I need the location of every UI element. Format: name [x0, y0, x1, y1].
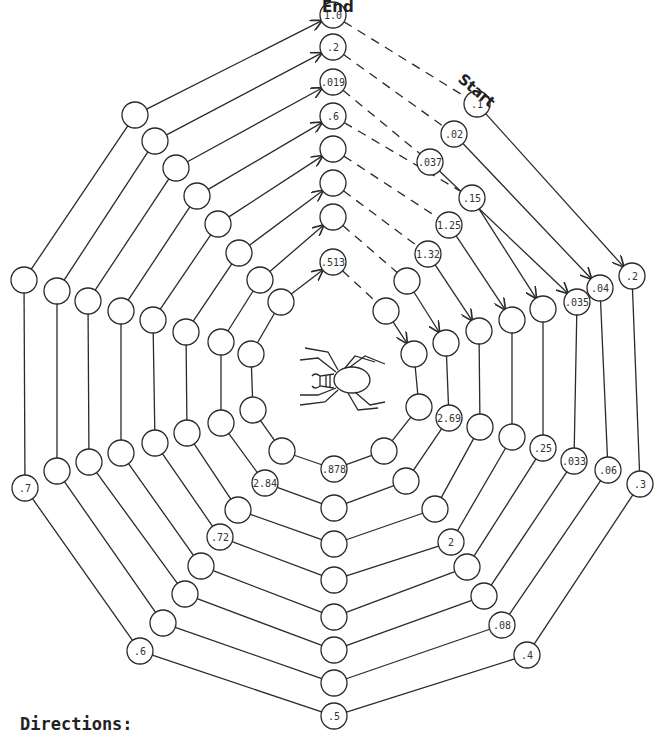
node-circle[interactable] [467, 414, 493, 440]
node-circle[interactable] [401, 341, 427, 367]
node-circle[interactable] [44, 278, 70, 304]
web-node[interactable] [530, 296, 556, 322]
web-node[interactable] [44, 278, 70, 304]
node-circle[interactable] [44, 458, 70, 484]
web-node[interactable]: 2.69 [436, 405, 462, 431]
web-node[interactable]: .2 [619, 263, 645, 289]
web-node[interactable] [184, 183, 210, 209]
node-circle[interactable] [240, 397, 266, 423]
node-circle[interactable] [188, 553, 214, 579]
node-circle[interactable] [422, 496, 448, 522]
node-circle[interactable] [208, 410, 234, 436]
web-node[interactable] [208, 329, 234, 355]
web-node[interactable]: 1.25 [436, 212, 462, 238]
web-node[interactable] [422, 496, 448, 522]
node-circle[interactable] [11, 267, 37, 293]
node-circle[interactable] [371, 438, 397, 464]
node-circle[interactable] [205, 211, 231, 237]
web-node[interactable] [269, 438, 295, 464]
node-circle[interactable] [108, 440, 134, 466]
node-circle[interactable] [269, 438, 295, 464]
web-node[interactable]: .2 [320, 34, 346, 60]
web-node[interactable] [11, 267, 37, 293]
node-circle[interactable] [173, 319, 199, 345]
node-circle[interactable] [321, 604, 347, 630]
node-circle[interactable] [373, 298, 399, 324]
web-node[interactable] [321, 531, 347, 557]
web-node[interactable] [247, 267, 273, 293]
web-node[interactable]: .033 [561, 448, 587, 474]
web-node[interactable]: .3 [627, 471, 653, 497]
node-circle[interactable] [142, 128, 168, 154]
web-node[interactable] [433, 330, 459, 356]
node-circle[interactable] [140, 307, 166, 333]
node-circle[interactable] [471, 583, 497, 609]
node-circle[interactable] [122, 102, 148, 128]
web-node[interactable] [320, 136, 346, 162]
node-circle[interactable] [394, 268, 420, 294]
node-circle[interactable] [393, 468, 419, 494]
web-node[interactable] [371, 438, 397, 464]
node-circle[interactable] [142, 430, 168, 456]
node-circle[interactable] [454, 554, 480, 580]
web-node[interactable] [499, 307, 525, 333]
node-circle[interactable] [163, 155, 189, 181]
web-node[interactable] [172, 581, 198, 607]
node-circle[interactable] [499, 307, 525, 333]
web-node[interactable]: .25 [530, 435, 556, 461]
web-node[interactable] [373, 298, 399, 324]
node-circle[interactable] [238, 341, 264, 367]
node-circle[interactable] [75, 288, 101, 314]
web-node[interactable] [240, 397, 266, 423]
web-node[interactable] [150, 610, 176, 636]
node-circle[interactable] [108, 298, 134, 324]
node-circle[interactable] [321, 567, 347, 593]
node-circle[interactable] [174, 420, 200, 446]
web-node[interactable]: .878 [321, 456, 347, 482]
web-node[interactable] [268, 289, 294, 315]
node-circle[interactable] [321, 637, 347, 663]
web-node[interactable] [142, 430, 168, 456]
web-node[interactable] [140, 307, 166, 333]
node-circle[interactable] [208, 329, 234, 355]
web-node[interactable] [471, 583, 497, 609]
web-node[interactable] [406, 394, 432, 420]
web-node[interactable]: .6 [320, 103, 346, 129]
node-circle[interactable] [320, 170, 346, 196]
web-node[interactable] [163, 155, 189, 181]
web-node[interactable]: .02 [441, 121, 467, 147]
web-node[interactable] [226, 240, 252, 266]
node-circle[interactable] [406, 394, 432, 420]
node-circle[interactable] [184, 183, 210, 209]
web-node[interactable] [238, 341, 264, 367]
node-circle[interactable] [150, 610, 176, 636]
web-node[interactable] [454, 554, 480, 580]
web-node[interactable] [108, 440, 134, 466]
web-node[interactable] [76, 449, 102, 475]
node-circle[interactable] [76, 449, 102, 475]
web-node[interactable] [321, 670, 347, 696]
web-node[interactable] [393, 468, 419, 494]
node-circle[interactable] [225, 497, 251, 523]
web-node[interactable]: .035 [564, 289, 590, 315]
web-node[interactable] [75, 288, 101, 314]
node-circle[interactable] [321, 495, 347, 521]
node-circle[interactable] [530, 296, 556, 322]
web-node[interactable]: .019 [320, 69, 346, 95]
node-circle[interactable] [247, 267, 273, 293]
web-node[interactable] [321, 495, 347, 521]
web-node[interactable]: 2 [438, 529, 464, 555]
web-node[interactable] [44, 458, 70, 484]
web-node[interactable] [321, 637, 347, 663]
web-node[interactable]: .5 [321, 703, 347, 729]
web-node[interactable]: .037 [417, 149, 443, 175]
web-node[interactable] [321, 604, 347, 630]
web-node[interactable] [499, 424, 525, 450]
web-node[interactable]: .6 [127, 638, 153, 664]
node-circle[interactable] [466, 318, 492, 344]
web-node[interactable]: .08 [489, 612, 515, 638]
web-node[interactable] [320, 170, 346, 196]
web-node[interactable] [466, 318, 492, 344]
web-node[interactable] [321, 567, 347, 593]
node-circle[interactable] [321, 670, 347, 696]
